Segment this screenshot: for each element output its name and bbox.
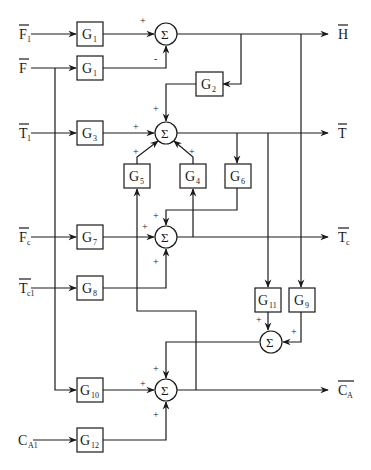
svg-text:+: + (140, 15, 146, 26)
output-Tc: T c (338, 228, 350, 247)
input-F: F (19, 59, 29, 76)
input-Fc: F c (19, 228, 31, 247)
svg-text:Σ: Σ (161, 27, 169, 42)
summing-junction-4: Σ (260, 331, 282, 353)
svg-text:c1: c1 (27, 289, 35, 298)
svg-text:5: 5 (140, 177, 144, 186)
svg-text:1: 1 (27, 35, 31, 44)
svg-text:G: G (82, 126, 92, 141)
block-diagram: G 1 G 1 G 2 G 3 G 5 G 4 G 6 G 7 G 8 (0, 0, 371, 470)
svg-text:F: F (19, 27, 27, 42)
svg-text:9: 9 (305, 301, 309, 310)
svg-text:+: + (153, 103, 159, 114)
svg-text:+: + (153, 363, 159, 374)
svg-text:2: 2 (212, 85, 216, 94)
block-G11: G 11 (255, 288, 281, 312)
svg-text:6: 6 (241, 177, 245, 186)
block-G8: G 8 (77, 276, 103, 300)
svg-text:11: 11 (269, 301, 277, 310)
svg-text:+: + (153, 256, 159, 267)
svg-text:A1: A1 (28, 441, 38, 450)
block-G5: G 5 (124, 164, 150, 188)
svg-text:F: F (19, 61, 27, 76)
summing-junction-2: Σ (155, 122, 177, 144)
block-G6: G 6 (225, 164, 251, 188)
svg-text:G: G (80, 383, 90, 398)
summing-junction-3: Σ (155, 226, 177, 248)
svg-text:+: + (133, 121, 139, 132)
input-F1: F 1 (19, 25, 31, 44)
svg-text:8: 8 (93, 289, 97, 298)
svg-text:+: + (140, 378, 146, 389)
block-G2: G 2 (196, 72, 223, 96)
svg-text:G: G (82, 61, 92, 76)
svg-text:A: A (347, 391, 353, 400)
svg-text:G: G (82, 281, 92, 296)
svg-text:G: G (82, 230, 92, 245)
svg-text:G: G (258, 293, 268, 308)
svg-text:+: + (142, 221, 148, 232)
block-G1-top: G 1 (77, 22, 103, 46)
svg-text:G: G (294, 293, 304, 308)
svg-text:G: G (80, 433, 90, 448)
svg-text:1: 1 (93, 69, 97, 78)
svg-text:Σ: Σ (161, 126, 169, 141)
svg-text:c: c (346, 238, 350, 247)
svg-text:Σ: Σ (161, 230, 169, 245)
svg-text:Σ: Σ (161, 383, 169, 398)
output-H: H (338, 25, 348, 42)
svg-text:G: G (82, 27, 92, 42)
svg-text:C: C (338, 383, 347, 398)
svg-text:C: C (18, 433, 27, 448)
svg-text:12: 12 (91, 441, 99, 450)
svg-text:Σ: Σ (266, 335, 274, 350)
block-G7: G 7 (77, 225, 103, 249)
summing-junction-5: Σ (155, 379, 177, 401)
signal-wires (31, 34, 328, 440)
svg-text:+: + (291, 326, 297, 337)
block-G4: G 4 (180, 164, 206, 188)
input-CA1: C A1 (18, 433, 38, 450)
output-CA: C A (338, 381, 354, 400)
summing-junction-1: Σ (155, 23, 177, 45)
svg-text:+: + (153, 210, 159, 221)
input-T1: T 1 (19, 124, 31, 143)
svg-text:G: G (185, 169, 195, 184)
block-G9: G 9 (289, 288, 315, 312)
svg-text:+: + (153, 409, 159, 420)
block-G3: G 3 (77, 121, 103, 145)
block-G10: G 10 (77, 378, 103, 402)
svg-text:G: G (201, 77, 211, 92)
block-G12: G 12 (77, 428, 103, 452)
svg-text:+: + (256, 314, 262, 325)
svg-text:-: - (154, 53, 157, 64)
svg-text:4: 4 (196, 177, 200, 186)
svg-text:10: 10 (91, 391, 99, 400)
svg-text:3: 3 (93, 134, 97, 143)
svg-text:H: H (338, 27, 348, 42)
svg-text:1: 1 (93, 35, 97, 44)
output-T: T (338, 124, 347, 141)
svg-text:+: + (189, 146, 195, 157)
svg-text:T: T (338, 126, 347, 141)
svg-text:G: G (129, 169, 139, 184)
svg-text:G: G (230, 169, 240, 184)
svg-text:+: + (133, 146, 139, 157)
svg-text:F: F (19, 230, 27, 245)
svg-text:7: 7 (93, 238, 97, 247)
svg-text:1: 1 (27, 134, 31, 143)
svg-text:c: c (27, 238, 31, 247)
input-Tc1: T c1 (19, 279, 35, 298)
block-G1-bottom: G 1 (77, 56, 103, 80)
